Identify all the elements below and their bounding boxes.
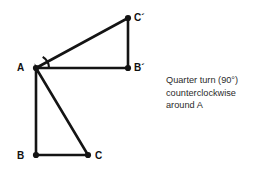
vertex-label-b-prime: B´ xyxy=(134,63,145,73)
vertex-dot-c-prime xyxy=(125,15,131,21)
vertex-label-b: B xyxy=(17,151,24,161)
transformation-caption: Quarter turn (90°) counterclockwise arou… xyxy=(166,74,266,112)
vertex-dot-a xyxy=(33,65,39,71)
vertex-dot-c xyxy=(85,152,91,158)
caption-line-2: counterclockwise xyxy=(166,87,266,100)
original-triangle xyxy=(36,68,88,155)
vertex-label-a: A xyxy=(17,63,24,73)
image-triangle xyxy=(36,18,128,68)
caption-line-3: around A xyxy=(166,99,266,112)
vertex-label-c-prime: C´ xyxy=(134,13,145,23)
vertex-dot-b-prime xyxy=(125,65,131,71)
vertex-label-c: C xyxy=(95,151,102,161)
vertex-dot-b xyxy=(33,152,39,158)
geometry-diagram: A B C B´ C´ Quarter turn (90°) countercl… xyxy=(0,0,269,176)
caption-line-1: Quarter turn (90°) xyxy=(166,74,266,87)
